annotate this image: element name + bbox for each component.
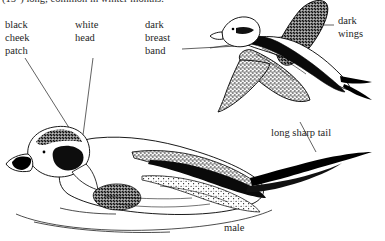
illustration-canvas [0, 0, 385, 241]
leader-white-head [82, 58, 93, 143]
leader-cheek-patch [25, 58, 73, 134]
flying-duck-tail-streamer [340, 76, 372, 84]
label-male: male [224, 221, 244, 234]
swimming-duck-illustration [6, 126, 372, 232]
label-dark-wings: dark wings [338, 14, 363, 40]
flying-duck-eye [232, 28, 235, 31]
flying-duck-tail-streamer-2 [343, 84, 372, 100]
label-black-cheek-patch: black cheek patch [5, 18, 29, 57]
swimming-duck-eye [43, 151, 46, 154]
label-long-sharp-tail: long sharp tail [271, 126, 331, 139]
figure-plate: (15") long; common in winter months. [0, 0, 385, 241]
flying-duck-bill [210, 32, 223, 39]
label-dark-breast-band: dark breast band [145, 18, 170, 57]
swimming-duck-long-tail [250, 152, 372, 186]
flying-duck-near-wing-lower [218, 60, 270, 112]
label-white-head: white head [75, 18, 98, 44]
